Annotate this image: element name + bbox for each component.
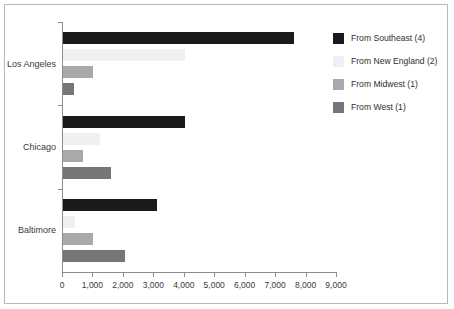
bar — [63, 233, 93, 245]
y-axis-group-tick — [58, 105, 62, 106]
legend-swatch-icon — [333, 79, 344, 90]
legend-item[interactable]: From New England (2) — [333, 50, 445, 73]
x-axis-tick — [153, 272, 154, 277]
legend-swatch-icon — [333, 33, 344, 44]
y-axis-group-tick — [58, 22, 62, 23]
x-axis-tick-label: 5,000 — [204, 280, 225, 290]
bar — [63, 32, 294, 44]
bar — [63, 216, 75, 228]
legend-swatch-icon — [333, 56, 344, 67]
x-axis-tick — [92, 272, 93, 277]
x-axis-tick — [214, 272, 215, 277]
bar — [63, 49, 185, 61]
x-axis-tick — [123, 272, 124, 277]
x-axis-tick-label: 8,000 — [295, 280, 316, 290]
x-axis-tick-label: 2,000 — [112, 280, 133, 290]
legend-item[interactable]: From Midwest (1) — [333, 73, 445, 96]
x-axis-tick — [184, 272, 185, 277]
bar — [63, 167, 111, 179]
chart-legend: From Southeast (4)From New England (2)Fr… — [333, 27, 445, 119]
y-axis-group-tick — [58, 189, 62, 190]
bar — [63, 83, 74, 95]
x-axis-tick-label: 3,000 — [143, 280, 164, 290]
plot-area: 01,0002,0003,0004,0005,0006,0007,0008,00… — [62, 22, 336, 272]
bar — [63, 133, 100, 145]
x-axis-tick — [245, 272, 246, 277]
x-axis-tick-label: 4,000 — [173, 280, 194, 290]
x-axis-tick — [336, 272, 337, 277]
bar — [63, 250, 125, 262]
legend-item[interactable]: From West (1) — [333, 96, 445, 119]
y-axis-category-label: Los Angeles — [7, 59, 56, 69]
y-axis-category-label: Baltimore — [18, 225, 56, 235]
legend-item-label: From Southeast (4) — [351, 34, 425, 43]
x-axis-tick — [62, 272, 63, 277]
y-axis-category-label: Chicago — [23, 142, 56, 152]
bar-chart-figure: Los AngelesChicagoBaltimore 01,0002,0003… — [0, 0, 454, 309]
x-axis-tick-label: 6,000 — [234, 280, 255, 290]
legend-item-label: From West (1) — [351, 103, 406, 112]
bar — [63, 66, 93, 78]
x-axis-tick-label: 7,000 — [264, 280, 285, 290]
bar — [63, 150, 83, 162]
x-axis-tick — [306, 272, 307, 277]
legend-item[interactable]: From Southeast (4) — [333, 27, 445, 50]
legend-swatch-icon — [333, 102, 344, 113]
x-axis-tick — [275, 272, 276, 277]
bar — [63, 116, 185, 128]
y-axis-category-labels: Los AngelesChicagoBaltimore — [0, 22, 56, 272]
x-axis-tick-label: 0 — [60, 280, 65, 290]
legend-item-label: From Midwest (1) — [351, 80, 418, 89]
x-axis-tick-label: 1,000 — [82, 280, 103, 290]
x-axis-line — [62, 272, 336, 273]
bar — [63, 199, 157, 211]
legend-item-label: From New England (2) — [351, 57, 437, 66]
x-axis-tick-label: 9,000 — [325, 280, 346, 290]
